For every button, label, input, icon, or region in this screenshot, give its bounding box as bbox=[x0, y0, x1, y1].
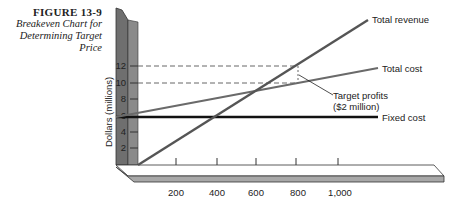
svg-text:8: 8 bbox=[121, 93, 126, 104]
svg-text:600: 600 bbox=[248, 187, 264, 198]
target-profits-label-1: Target profits bbox=[333, 90, 388, 101]
target-profits-label-2: ($2 million) bbox=[333, 101, 379, 112]
svg-text:1,000: 1,000 bbox=[328, 187, 352, 198]
y-axis-label: Dollars (millions) bbox=[103, 77, 114, 147]
total-revenue-label: Total revenue bbox=[372, 14, 429, 25]
svg-text:800: 800 bbox=[290, 187, 306, 198]
svg-text:4: 4 bbox=[121, 126, 126, 137]
x-tick-labels: 200 400 600 800 1,000 bbox=[168, 187, 352, 198]
svg-text:12: 12 bbox=[115, 60, 126, 71]
svg-text:2: 2 bbox=[121, 142, 126, 153]
total-cost-label: Total cost bbox=[382, 63, 422, 74]
fixed-cost-label: Fixed cost bbox=[382, 112, 426, 123]
y-axis-wall-side bbox=[128, 20, 138, 165]
svg-text:10: 10 bbox=[115, 77, 126, 88]
x-ticks bbox=[176, 158, 338, 165]
x-axis-floor-top bbox=[116, 165, 444, 176]
svg-text:200: 200 bbox=[168, 187, 184, 198]
svg-text:400: 400 bbox=[209, 187, 225, 198]
breakeven-chart: 12 10 8 6 4 2 Dollars (millions) 200 400… bbox=[0, 0, 450, 207]
